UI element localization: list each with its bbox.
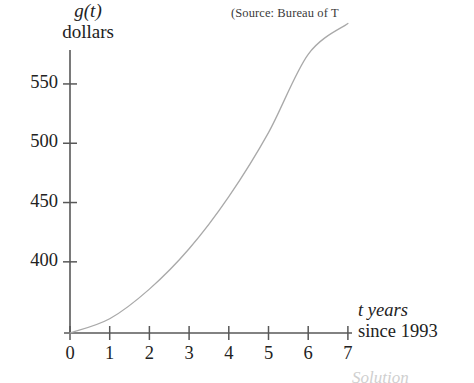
x-tick-label: 3: [177, 343, 201, 364]
bottom-caption: Solution: [352, 368, 409, 383]
x-tick-label: 4: [217, 343, 241, 364]
axes: [64, 50, 352, 333]
y-tick-label: 400: [2, 250, 58, 271]
y-tick-label: 550: [2, 72, 58, 93]
x-tick-label: 2: [137, 343, 161, 364]
x-tick-label: 1: [98, 343, 122, 364]
y-tick-label: 500: [2, 131, 58, 152]
data-curve-line: [70, 23, 348, 333]
y-tick-label: 450: [2, 191, 58, 212]
x-tick-label: 0: [58, 343, 82, 364]
plot-area: [0, 0, 474, 383]
x-tick-label: 6: [296, 343, 320, 364]
x-tick-label: 7: [336, 343, 360, 364]
x-tick-label: 5: [257, 343, 281, 364]
tick-marks: [63, 84, 348, 340]
chart-figure: (Source: Bureau of T g(t) dollars t year…: [0, 0, 474, 383]
